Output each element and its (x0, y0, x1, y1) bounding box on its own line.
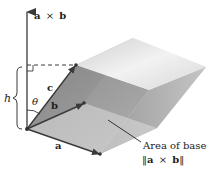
vector-c-label: c (47, 82, 53, 93)
theta-label: θ (32, 96, 38, 107)
area-label-line2: ‖a × b‖ (142, 154, 184, 166)
height-brace (13, 67, 22, 129)
vector-a-label: a (55, 140, 62, 151)
origin-dot (25, 127, 29, 131)
vector-b-label: b (51, 100, 58, 111)
vertex-c-dot (74, 63, 78, 67)
right-angle-marker (27, 65, 33, 71)
parallelepiped-diagram: a × b c b a h θ Area of base ‖a × b‖ (0, 0, 210, 169)
cross-product-label: a × b (34, 10, 66, 21)
area-label-line1: Area of base (142, 140, 206, 151)
vertex-b-dot (82, 101, 86, 105)
height-label: h (4, 92, 11, 105)
vertex-a-dot (98, 152, 102, 156)
